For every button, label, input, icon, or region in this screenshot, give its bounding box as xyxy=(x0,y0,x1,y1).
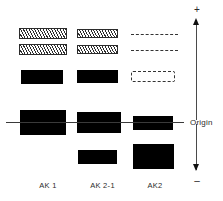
axis-stem-upper xyxy=(196,20,197,120)
origin-baseline xyxy=(6,122,184,123)
axis-arrow-up-icon xyxy=(193,18,199,25)
band-lane1-row2 xyxy=(19,44,67,55)
band-lane2-row1 xyxy=(77,29,118,38)
band-lane2-row2 xyxy=(77,45,118,54)
lane-label-lane-1: AK 1 xyxy=(27,181,69,190)
band-lane3-row2 xyxy=(131,50,178,51)
band-lane3-row3 xyxy=(131,71,175,82)
band-lane2-row5 xyxy=(78,150,117,164)
axis-positive-sign: + xyxy=(190,5,204,15)
lane-label-lane-2: AK 2-1 xyxy=(80,181,125,190)
band-lane3-origin xyxy=(133,116,173,130)
band-lane3-row5 xyxy=(133,144,174,169)
band-lane1-row1 xyxy=(19,28,67,39)
axis-arrow-down-icon xyxy=(193,164,199,171)
band-lane2-row3 xyxy=(77,70,118,83)
band-lane3-row1 xyxy=(131,34,178,35)
zymogram-figure: +–OriginAK 1AK 2-1AK2 xyxy=(0,0,223,201)
axis-negative-sign: – xyxy=(190,176,204,186)
origin-label: Origin xyxy=(190,118,213,127)
lane-label-lane-3: AK2 xyxy=(134,181,176,190)
band-lane1-row3 xyxy=(21,70,63,84)
